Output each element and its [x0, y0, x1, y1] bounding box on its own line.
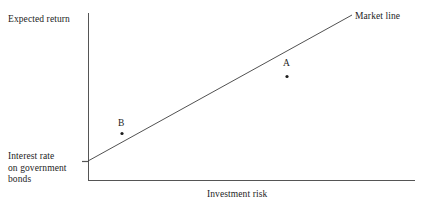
y-axis-origin-label-line-3: bonds	[8, 174, 84, 186]
market-line-series	[88, 15, 352, 161]
y-axis-origin-label-line-2: on government	[8, 163, 84, 175]
chart-figure: Expected return Interest rate on governm…	[0, 0, 423, 206]
data-point-b-label: B	[118, 118, 124, 130]
data-point-a-label: A	[283, 58, 290, 70]
market-line-annotation: Market line	[355, 11, 400, 23]
x-axis-label: Investment risk	[207, 189, 267, 201]
data-point-b	[120, 132, 123, 135]
y-axis-label: Expected return	[8, 14, 70, 26]
y-axis-origin-label-line-1: Interest rate	[8, 151, 84, 163]
y-axis-origin-label: Interest rate on government bonds	[8, 151, 84, 186]
data-point-a	[285, 75, 288, 78]
